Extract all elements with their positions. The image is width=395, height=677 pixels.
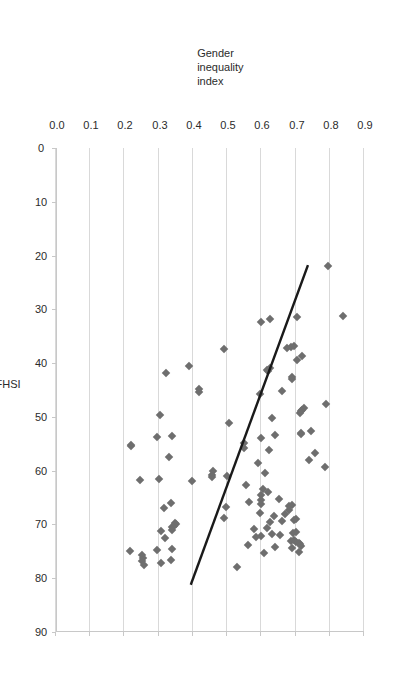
x-tick-label: 0 xyxy=(28,142,54,154)
y-tick xyxy=(89,632,90,636)
rotated-chart-stage: 0102030405060708090 0.90.80.70.60.50.40.… xyxy=(0,0,395,677)
y-tick xyxy=(363,632,364,636)
plot-area xyxy=(56,148,364,632)
y-tick-label: 0.8 xyxy=(316,119,346,131)
y-axis-title-line: inequality xyxy=(197,60,243,74)
y-tick xyxy=(260,632,261,636)
x-tick-label: 90 xyxy=(28,626,54,638)
y-tick xyxy=(123,632,124,636)
x-tick-label: 50 xyxy=(28,411,54,423)
x-tick-label: 60 xyxy=(28,465,54,477)
y-tick xyxy=(55,632,56,636)
scatter-figure: 0102030405060708090 0.90.80.70.60.50.40.… xyxy=(0,0,395,677)
y-tick xyxy=(329,632,330,636)
x-tick-label: 80 xyxy=(28,572,54,584)
y-tick xyxy=(158,632,159,636)
y-tick-label: 0.4 xyxy=(179,119,209,131)
y-axis-title-line: Gender xyxy=(197,47,243,61)
y-tick-label: 0.6 xyxy=(247,119,277,131)
y-tick-label: 0.3 xyxy=(145,119,175,131)
y-axis-title: Genderinequalityindex xyxy=(197,47,243,88)
x-tick-label: 40 xyxy=(28,357,54,369)
y-tick-label: 0.1 xyxy=(76,119,106,131)
y-tick xyxy=(192,632,193,636)
y-tick-label: 0.2 xyxy=(110,119,140,131)
y-tick xyxy=(226,632,227,636)
y-tick-label: 0.5 xyxy=(213,119,243,131)
y-tick-label: 0.9 xyxy=(350,119,380,131)
y-axis-title-line: index xyxy=(197,74,243,88)
x-tick-label: 30 xyxy=(28,303,54,315)
y-tick xyxy=(295,632,296,636)
x-tick-label: 10 xyxy=(28,196,54,208)
x-tick-label: 20 xyxy=(28,250,54,262)
x-tick-label: 70 xyxy=(28,518,54,530)
y-tick-label: 0.0 xyxy=(42,119,72,131)
trend-line xyxy=(56,148,364,632)
x-axis-title: FHSI xyxy=(0,377,21,389)
chart-page: 0102030405060708090 0.90.80.70.60.50.40.… xyxy=(0,0,395,677)
y-tick-label: 0.7 xyxy=(282,119,312,131)
